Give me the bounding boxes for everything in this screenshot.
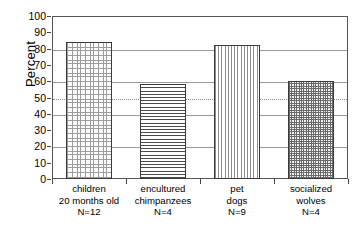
category-label-line: N=9 [200, 206, 274, 218]
category-label-line: 20 months old [52, 195, 126, 207]
y-tick-mark [47, 49, 51, 50]
y-axis-tick-label: 90 [12, 27, 46, 38]
y-axis-tick-label: 50 [12, 92, 46, 103]
y-tick-mark [47, 163, 51, 164]
bar-encultured-chimpanzees[interactable] [140, 84, 186, 179]
category-label-line: N=4 [126, 206, 200, 218]
category-label-line: chimpanzees [126, 195, 200, 207]
y-tick-mark [47, 81, 51, 82]
y-tick-mark [47, 114, 51, 115]
y-axis-tick-label: 60 [12, 76, 46, 87]
bar-socialized-wolves[interactable] [288, 81, 334, 179]
y-tick-mark [47, 65, 51, 66]
category-label-line: socialized [274, 183, 348, 195]
category-label: petdogsN=9 [200, 183, 274, 218]
y-axis-tick-label: 40 [12, 109, 46, 120]
y-tick-mark [47, 98, 51, 99]
category-label: socializedwolvesN=4 [274, 183, 348, 218]
bar-slot [126, 16, 200, 179]
bar-pet-dogs[interactable] [214, 45, 260, 179]
y-tick-mark [47, 16, 51, 17]
y-axis-tick-label: 0 [12, 174, 46, 185]
y-tick-mark [47, 179, 51, 180]
x-axis-category-labels: children20 months oldN=12enculturedchimp… [52, 183, 348, 231]
y-axis-tick-label: 100 [12, 11, 46, 22]
y-tick-mark [47, 146, 51, 147]
bar-series [52, 16, 348, 179]
category-label-line: N=12 [52, 206, 126, 218]
bar-slot [200, 16, 274, 179]
y-axis-tick-labels: 1009080706050403020100 [12, 0, 46, 233]
category-label-line: children [52, 183, 126, 195]
bar-slot [52, 16, 126, 179]
category-label: children20 months oldN=12 [52, 183, 126, 218]
category-label-line: encultured [126, 183, 200, 195]
category-label: enculturedchimpanzeesN=4 [126, 183, 200, 218]
y-axis-tick-label: 20 [12, 141, 46, 152]
y-axis-tick-label: 80 [12, 43, 46, 54]
category-label-line: dogs [200, 195, 274, 207]
bar-slot [274, 16, 348, 179]
y-axis-tick-label: 10 [12, 157, 46, 168]
category-label-line: wolves [274, 195, 348, 207]
bar-chart: Percent 1009080706050403020100 children2… [0, 0, 363, 233]
y-axis-tick-label: 70 [12, 60, 46, 71]
x-tick-mark [348, 179, 349, 184]
y-tick-mark [47, 130, 51, 131]
category-label-line: N=4 [274, 206, 348, 218]
y-tick-mark [47, 32, 51, 33]
y-axis-tick-label: 30 [12, 125, 46, 136]
bar-children[interactable] [66, 42, 112, 179]
category-label-line: pet [200, 183, 274, 195]
